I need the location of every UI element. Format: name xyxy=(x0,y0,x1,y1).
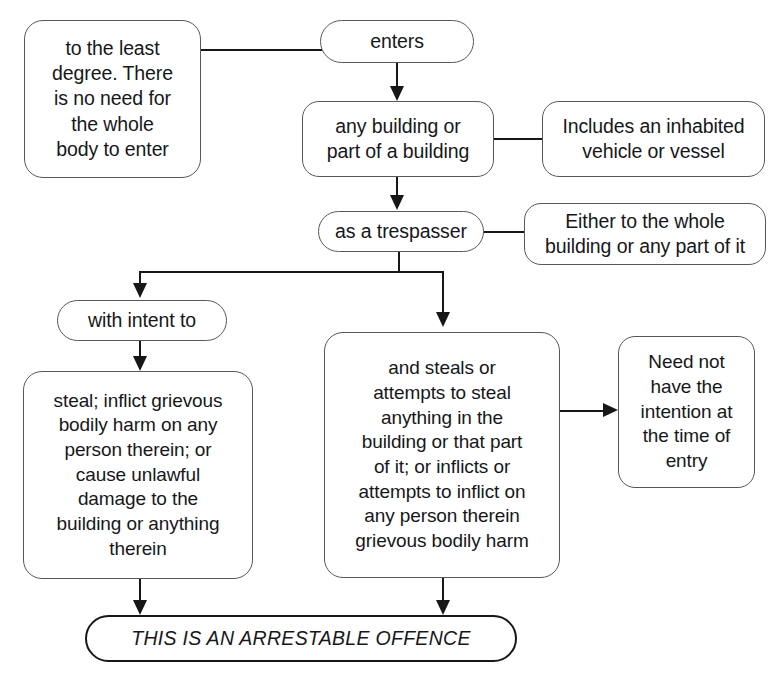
node-either-whole-building: Either to the whole building or any part… xyxy=(524,203,766,265)
node-enters-label: enters xyxy=(321,29,473,54)
arrowhead-branch-to-steals xyxy=(436,312,450,327)
node-least-degree: to the least degree. There is no need fo… xyxy=(24,20,201,178)
edge-least-degree-to-enters xyxy=(198,49,322,51)
arrowhead-enters-to-building xyxy=(390,86,404,101)
node-steal-inflict-damage-label: steal; inflict grievous bodily harm on a… xyxy=(24,389,252,562)
node-steals-or-attempts: and steals or attempts to steal anything… xyxy=(324,332,560,578)
node-with-intent-to-label: with intent to xyxy=(58,308,226,333)
node-arrestable-offence: THIS IS AN ARRESTABLE OFFENCE xyxy=(85,615,517,662)
node-any-building: any building or part of a building xyxy=(302,101,494,177)
edge-enters-to-building xyxy=(396,62,398,88)
edge-branch-to-steals xyxy=(442,271,444,314)
node-steals-or-attempts-label: and steals or attempts to steal anything… xyxy=(325,356,559,554)
node-need-not-have-intention-label: Need not have the intention at the time … xyxy=(619,350,754,473)
edge-branch-bar xyxy=(139,271,444,273)
arrowhead-building-to-trespasser xyxy=(390,195,404,210)
arrowhead-steals-to-need-not xyxy=(603,403,618,417)
edge-building-to-vehicle xyxy=(492,138,544,140)
node-inhabited-vehicle-label: Includes an inhabited vehicle or vessel xyxy=(543,114,764,165)
node-need-not-have-intention: Need not have the intention at the time … xyxy=(618,336,755,488)
node-arrestable-offence-label: THIS IS AN ARRESTABLE OFFENCE xyxy=(87,626,515,651)
node-as-a-trespasser-label: as a trespasser xyxy=(319,219,483,244)
node-least-degree-label: to the least degree. There is no need fo… xyxy=(25,36,200,163)
node-any-building-label: any building or part of a building xyxy=(303,114,493,165)
node-either-whole-building-label: Either to the whole building or any part… xyxy=(525,209,765,260)
edge-steals-to-need-not xyxy=(558,410,606,412)
edge-building-to-trespasser xyxy=(396,176,398,196)
clipped-top-caption xyxy=(0,0,771,9)
arrowhead-steals-to-arrestable xyxy=(436,600,450,615)
edge-trespasser-to-either xyxy=(482,231,526,233)
node-enters: enters xyxy=(320,20,474,63)
node-with-intent-to: with intent to xyxy=(57,300,227,341)
edge-trespasser-branch-stem xyxy=(398,251,400,273)
node-steal-inflict-damage: steal; inflict grievous bodily harm on a… xyxy=(23,371,253,579)
arrowhead-steal-list-to-arrestable xyxy=(133,600,147,615)
arrowhead-intent-to-steal-list xyxy=(133,356,147,371)
node-inhabited-vehicle: Includes an inhabited vehicle or vessel xyxy=(542,101,765,177)
arrowhead-branch-to-intent xyxy=(133,283,147,298)
node-as-a-trespasser: as a trespasser xyxy=(318,211,484,252)
flowchart-canvas: to the least degree. There is no need fo… xyxy=(0,0,771,678)
